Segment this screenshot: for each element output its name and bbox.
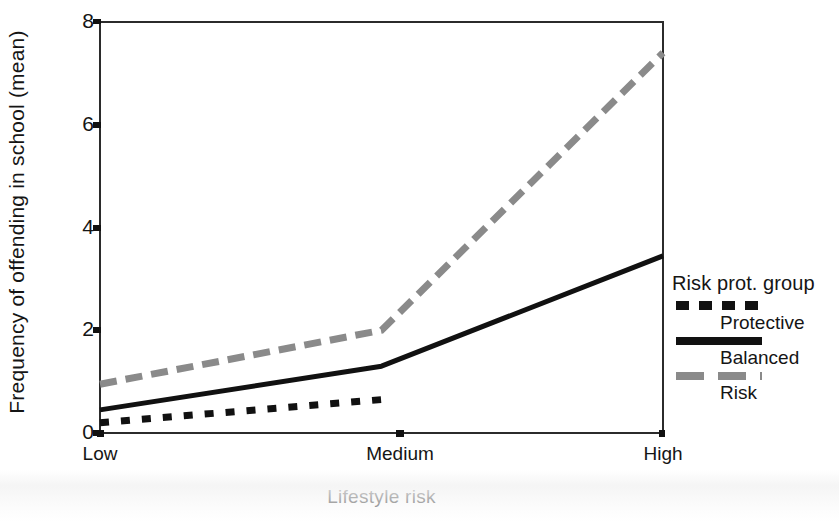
legend-item-protective: Protective — [672, 301, 838, 335]
series-line-risk — [100, 53, 663, 384]
legend-label-protective: Protective — [672, 311, 838, 335]
x-tick-label-medium: Medium — [366, 443, 434, 465]
x-tick-label-high: High — [643, 443, 682, 465]
legend-item-balanced: Balanced — [672, 337, 838, 370]
legend-item-risk: Risk — [672, 372, 838, 405]
dotted-line-marker-icon — [676, 301, 760, 310]
legend: Risk prot. group Protective Balanced Ris… — [672, 272, 838, 407]
legend-label-risk: Risk — [672, 381, 838, 405]
x-axis-title: Lifestyle risk — [100, 486, 663, 508]
x-tick-label-low: Low — [83, 443, 118, 465]
chart-figure: Frequency of offending in school (mean) … — [0, 0, 839, 522]
solid-line-marker-icon — [676, 337, 762, 345]
legend-label-balanced: Balanced — [672, 346, 838, 370]
legend-title: Risk prot. group — [672, 272, 838, 295]
dashed-line-marker-icon — [676, 372, 762, 380]
